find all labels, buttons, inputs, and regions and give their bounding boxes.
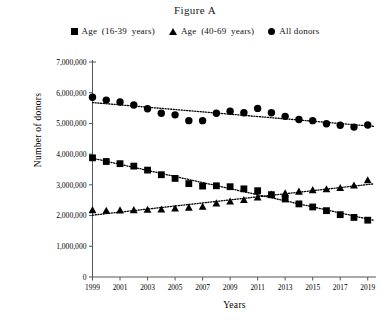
data-point-square [199,183,206,190]
x-tick-label: 2005 [168,283,183,292]
data-point-circle [337,122,344,129]
x-tick-label: 2007 [195,283,210,292]
series-circle [89,94,374,131]
data-point-triangle [157,205,165,212]
data-point-square [227,183,234,190]
data-point-square [296,201,303,208]
figure-container: Figure A Age (16-39 years) Age (40-69 ye… [0,0,390,326]
data-point-square [89,154,96,161]
x-tick-label: 1999 [85,283,100,292]
data-point-square [351,214,358,221]
data-point-circle [309,117,316,124]
data-point-square [158,171,165,178]
data-point-circle [144,105,151,112]
data-point-circle [323,120,330,127]
data-point-circle [281,113,288,120]
x-tick-label: 2019 [360,283,375,292]
data-point-square [185,180,192,187]
y-tick-label: 5,000,000 [56,119,87,128]
data-point-triangle [130,206,138,213]
y-tick-label: 6,000,000 [56,89,87,98]
data-point-circle [103,96,110,103]
y-tick-label: 1,000,000 [56,242,87,251]
data-point-square [240,185,247,192]
data-point-circle [199,117,206,124]
data-point-triangle [240,196,248,203]
data-point-circle [364,121,371,128]
data-point-square [213,182,220,189]
y-axis-title: Number of donors [33,70,43,190]
y-tick-label: 3,000,000 [56,181,87,190]
data-point-circle [226,107,233,114]
data-point-square [254,187,261,194]
data-point-triangle [212,199,220,206]
data-point-triangle [309,186,317,193]
x-tick-label: 2001 [113,283,128,292]
data-point-triangle [295,188,303,195]
data-point-circle [213,110,220,117]
x-tick-label: 2011 [250,283,265,292]
data-point-triangle [116,206,124,213]
data-point-square [144,167,151,174]
data-point-circle [268,109,275,116]
data-point-square [364,217,371,224]
data-point-circle [130,101,137,108]
data-point-circle [240,109,247,116]
x-axis-title: Years [92,300,377,310]
x-tick-label: 2013 [278,283,293,292]
y-tick-label: 2,000,000 [56,211,87,220]
data-point-circle [158,110,165,117]
y-tick-label: 7,000,000 [56,58,87,67]
chart-plot-area: 01,000,0002,000,0003,000,0004,000,0005,0… [0,0,390,326]
x-tick-label: 2015 [305,283,320,292]
data-point-circle [171,111,178,118]
data-point-circle [185,117,192,124]
data-point-triangle [226,197,234,204]
data-point-circle [254,105,261,112]
data-point-triangle [281,189,289,196]
data-point-square [172,175,179,182]
x-tick-label: 2003 [140,283,155,292]
data-point-square [103,158,110,165]
x-tick-label: 2009 [223,283,238,292]
data-point-square [130,163,137,170]
y-tick-label: 0 [83,273,87,282]
data-point-circle [350,123,357,130]
data-point-square [323,207,330,214]
data-point-square [117,160,124,167]
data-point-circle [295,116,302,123]
data-point-triangle [89,206,97,213]
y-tick-label: 4,000,000 [56,150,87,159]
data-point-circle [116,98,123,105]
data-point-triangle [350,181,358,188]
data-point-square [337,211,344,218]
x-tick-label: 2017 [333,283,348,292]
series-triangle [89,176,374,215]
data-point-triangle [364,176,372,183]
data-point-circle [89,94,96,101]
data-point-square [309,204,316,211]
data-point-square [282,196,289,203]
data-point-triangle [102,207,110,214]
